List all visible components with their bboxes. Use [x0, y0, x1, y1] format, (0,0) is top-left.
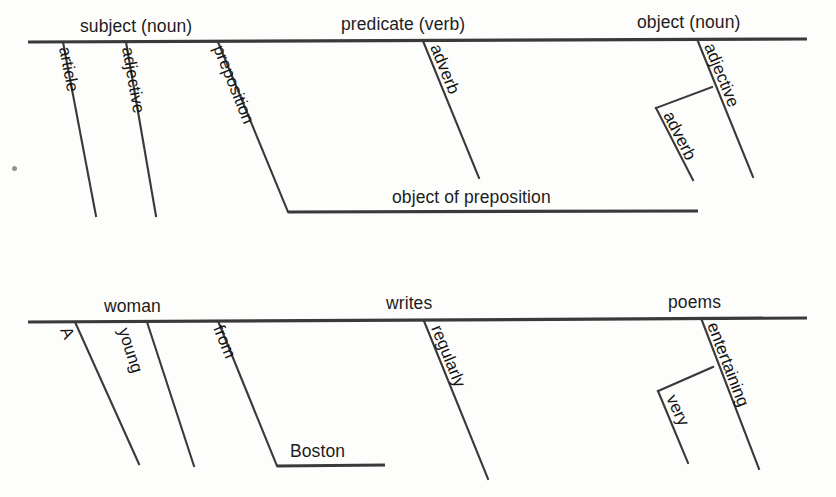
example-label-object: poems — [668, 292, 721, 312]
pattern-diagram: subject (noun) predicate (verb) object (… — [28, 12, 807, 216]
pattern-label-adverb-nested: adverb — [659, 108, 700, 163]
example-diagram: woman writes poems A young from Boston r… — [28, 292, 807, 479]
pattern-label-subject: subject (noun) — [80, 16, 192, 36]
example-label-object-of-preposition: Boston — [290, 441, 345, 461]
pattern-label-object: object (noun) — [637, 12, 740, 32]
pattern-label-object-of-preposition: object of preposition — [392, 187, 551, 207]
diagram-stage: subject (noun) predicate (verb) object (… — [0, 0, 836, 497]
pattern-line-adverb-nested-connector — [656, 87, 712, 108]
pattern-label-article: article — [55, 45, 82, 93]
example-label-subject: woman — [103, 296, 161, 316]
example-label-adjective-subject: young — [114, 325, 146, 375]
example-label-predicate: writes — [385, 293, 432, 313]
example-label-article: A — [56, 324, 78, 343]
example-label-adverb-predicate: regularly — [427, 322, 469, 390]
example-label-preposition: from — [209, 322, 239, 361]
example-line-adverb-nested-connector — [658, 367, 713, 391]
example-label-adjective-object: entertaining — [703, 320, 753, 410]
pattern-line-object-of-preposition — [288, 211, 698, 212]
pattern-label-adjective-subject: adjective — [118, 45, 148, 114]
pattern-label-preposition: preposition — [209, 42, 258, 126]
sentence-diagram-canvas: subject (noun) predicate (verb) object (… — [0, 0, 836, 497]
pattern-label-adjective-object: adjective — [700, 40, 743, 109]
pattern-baseline — [28, 39, 807, 42]
example-line-object-of-preposition — [277, 465, 385, 466]
example-line-adjective-subject — [147, 322, 194, 466]
pattern-label-predicate: predicate (verb) — [341, 14, 465, 34]
pattern-label-adverb-predicate: adverb — [426, 41, 463, 96]
example-baseline — [28, 318, 807, 322]
